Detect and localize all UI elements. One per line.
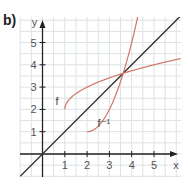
x-tick-label: 4	[129, 159, 135, 171]
x-tick-label: 5	[151, 159, 157, 171]
y-axis-label: y	[32, 16, 38, 28]
x-axis-label: x	[173, 159, 179, 171]
x-tick-label: 3	[106, 159, 112, 171]
x-tick-label: 2	[84, 159, 90, 171]
y-tick-label: 5	[30, 37, 36, 49]
y-tick-label: 3	[30, 81, 36, 93]
curve-label-f-inverse: f⁻¹	[97, 117, 110, 129]
y-tick-label: 1	[30, 126, 36, 138]
y-axis-arrow-icon	[40, 20, 46, 28]
y-tick-label: 2	[30, 103, 36, 115]
x-tick-label: 1	[62, 159, 68, 171]
identity-line	[20, 14, 183, 177]
function-inverse-chart: 1234512345xyff⁻¹	[0, 0, 188, 186]
y-tick-label: 4	[30, 59, 36, 71]
curve-label-f: f	[55, 95, 59, 107]
curve-f	[65, 59, 181, 110]
